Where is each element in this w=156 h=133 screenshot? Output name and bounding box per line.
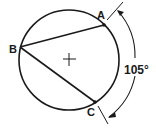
dimension-arc-lower <box>109 76 135 117</box>
point-c-dot <box>93 100 97 104</box>
dimension-arc <box>118 11 135 58</box>
extension-line-a <box>107 2 123 20</box>
arc-measure-label: 105° <box>124 63 149 77</box>
label-c: C <box>87 106 95 118</box>
chord-ba <box>20 25 104 47</box>
label-a: A <box>97 9 105 21</box>
center-cross-icon <box>63 53 76 66</box>
arrowhead-bottom-icon <box>108 112 116 118</box>
arrowhead-top-icon <box>117 10 124 16</box>
point-a-dot <box>102 23 106 27</box>
geometry-diagram: A B C 105° <box>0 0 156 133</box>
label-b: B <box>9 43 17 55</box>
extension-line-c <box>98 106 108 124</box>
